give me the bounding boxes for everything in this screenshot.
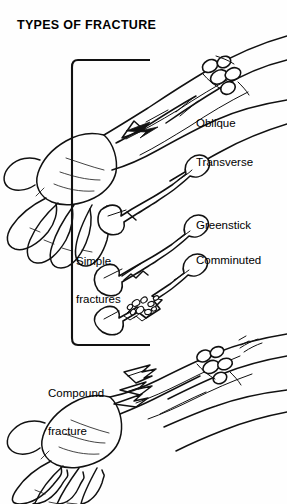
anatomical-diagram <box>0 0 287 504</box>
label-greenstick: Greenstick <box>196 219 251 232</box>
label-simple-line1: Simple <box>76 255 121 268</box>
label-compound-fracture: Compound fracture <box>48 362 104 462</box>
label-simple-fractures: Simple fractures <box>76 230 121 330</box>
label-transverse: Transverse <box>196 156 253 169</box>
bottom-wrist-bones <box>195 345 241 386</box>
top-arm-illustration <box>4 36 287 268</box>
label-compound-line2: fracture <box>48 425 104 438</box>
label-simple-line2: fractures <box>76 293 121 306</box>
label-compound-line1: Compound <box>48 387 104 400</box>
label-oblique: Oblique <box>196 117 236 130</box>
fracture-types-illustration: TYPES OF FRACTURE <box>0 0 287 504</box>
label-comminuted: Comminuted <box>196 254 261 267</box>
wrist-bones-cluster <box>200 54 249 97</box>
